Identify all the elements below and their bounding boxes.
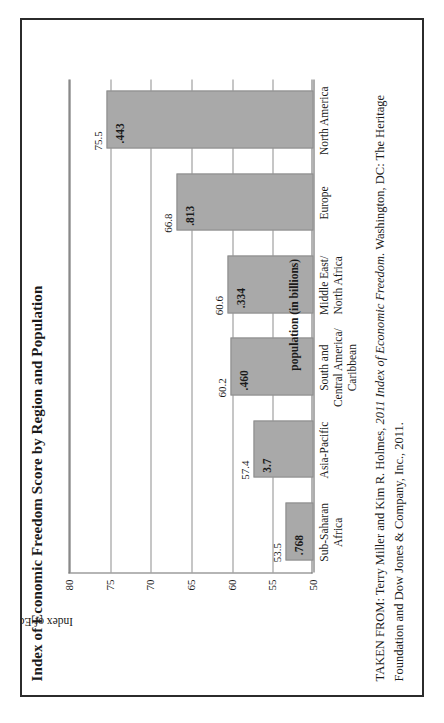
population-annotation: population (in billions) xyxy=(287,258,299,370)
rotated-figure-wrapper: Index of Economic Freedom Score by Regio… xyxy=(22,20,422,695)
source-prefix: TAKEN FROM: xyxy=(372,598,386,681)
category-axis-labels: Sub-SaharanAfricaAsia-PacificSouth andCe… xyxy=(316,79,356,573)
bar-population-label: .334 xyxy=(234,288,246,308)
y-axis-tick-label: 70 xyxy=(143,579,155,590)
bar-score-label: 53.5 xyxy=(270,542,282,561)
y-axis-tick-label: 80 xyxy=(62,579,74,590)
y-axis-title: Index of Economic Freedom Score xyxy=(20,611,114,627)
bar xyxy=(176,173,313,231)
category-label: South andCentral America/Caribbean xyxy=(316,328,358,407)
category-label: Middle East/North Africa xyxy=(316,255,344,314)
category-label-line: North Africa xyxy=(330,255,344,314)
category-label: Asia-Pacific xyxy=(316,421,330,478)
gridline xyxy=(313,79,314,572)
category-label-line: Asia-Pacific xyxy=(316,421,330,478)
bar-score-label: 60.6 xyxy=(212,295,224,314)
source-text-a: Terry Miller and Kim R. Holmes, xyxy=(372,424,386,598)
gridline xyxy=(272,79,273,572)
figure-frame: Index of Economic Freedom Score by Regio… xyxy=(20,18,424,697)
bar xyxy=(106,90,313,148)
y-axis-tick-label: 55 xyxy=(265,579,277,590)
category-label: Europe xyxy=(316,186,330,219)
bar-population-label: 3.7 xyxy=(260,458,272,472)
source-note: TAKEN FROM: Terry Miller and Kim R. Holm… xyxy=(370,41,409,681)
bar-score-label: 66.8 xyxy=(161,213,173,232)
category-label-line: Central America/ xyxy=(330,328,344,407)
category-label-line: Europe xyxy=(316,186,330,219)
gridline xyxy=(69,79,70,572)
y-axis-tick-label: 65 xyxy=(184,579,196,590)
plot-area: 53.5.76857.43.760.2.46060.6.33466.8.8137… xyxy=(68,79,312,573)
bar-score-label: 75.5 xyxy=(91,131,103,150)
category-label-line: Sub-Saharan xyxy=(316,502,330,561)
plot-block: Index of Economic Freedom Score 50556065… xyxy=(68,79,312,621)
bar-population-label: .813 xyxy=(183,205,195,225)
category-label: North America xyxy=(316,86,330,155)
y-axis-tick-label: 75 xyxy=(103,579,115,590)
y-axis-tick-labels: 50556065707580 xyxy=(68,577,312,603)
bar-score-label: 60.2 xyxy=(215,378,227,397)
y-axis-tick-label: 60 xyxy=(225,579,237,590)
bar-population-label: .443 xyxy=(113,123,125,143)
y-axis-tick-label: 50 xyxy=(306,579,318,590)
category-label-line: Africa xyxy=(330,502,344,561)
category-label-line: North America xyxy=(316,86,330,155)
gridline xyxy=(110,79,111,572)
source-title-italic: 2011 Index of Economic Freedom xyxy=(372,255,386,424)
category-label-line: Caribbean xyxy=(344,328,358,407)
chart-figure: Index of Economic Freedom Score by Regio… xyxy=(22,20,422,695)
category-label-line: Middle East/ xyxy=(316,255,330,314)
gridline xyxy=(232,79,233,572)
category-label-line: South and xyxy=(316,328,330,407)
gridline xyxy=(150,79,151,572)
bar-score-label: 57.4 xyxy=(238,460,250,479)
gridline xyxy=(191,79,192,572)
category-label: Sub-SaharanAfrica xyxy=(316,502,344,561)
bar-population-label: .460 xyxy=(237,370,249,390)
bar-population-label: .768 xyxy=(292,535,304,555)
